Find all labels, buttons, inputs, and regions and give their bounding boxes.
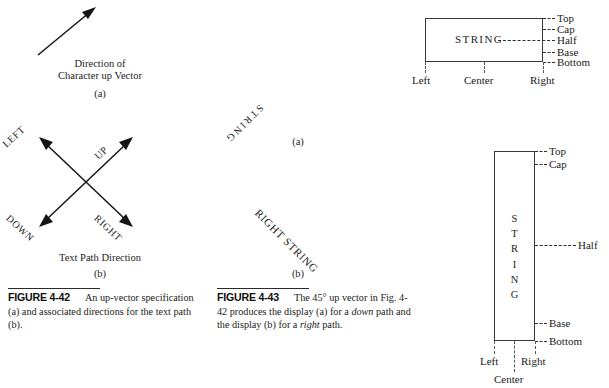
guide-line-center bbox=[514, 341, 515, 372]
figure-page: Direction of Character up Vector (a) LEF… bbox=[0, 0, 609, 388]
vertical-box-letter: I bbox=[494, 257, 535, 272]
guide-label-center: Center bbox=[464, 74, 493, 86]
guide-label-left: Left bbox=[480, 355, 498, 367]
figure-4-43-caption: FIGURE 4-43The 45° up vector in Fig. 4-4… bbox=[217, 288, 417, 332]
guide-label-bottom: Bottom bbox=[557, 56, 590, 68]
guide-line-left bbox=[494, 341, 495, 354]
vertical-box-string: S T R I N G bbox=[494, 211, 535, 302]
guide-line-right bbox=[535, 341, 536, 354]
guide-line-center bbox=[484, 62, 485, 73]
horizontal-box-string: STRING bbox=[455, 33, 503, 45]
vertical-box-letter: N bbox=[494, 272, 535, 287]
guide-line-base bbox=[535, 323, 547, 324]
figure-4-43-caption-line1: The 45° up bbox=[294, 292, 339, 303]
figure-4-42-caption: FIGURE 4-42An up-vector specification (a… bbox=[8, 288, 204, 332]
right-path-string: RIGHT STRING bbox=[253, 207, 321, 275]
vertical-box-letter: T bbox=[494, 226, 535, 241]
guide-line-bottom bbox=[535, 341, 547, 342]
up-vector-caption-line1: Direction of bbox=[0, 58, 200, 70]
guide-label-top: Top bbox=[549, 145, 566, 157]
guide-label-left: Left bbox=[412, 74, 430, 86]
guide-label-right: Right bbox=[521, 355, 545, 367]
vertical-box-letter: S bbox=[494, 211, 535, 226]
figure-4-43-number: FIGURE 4-43 bbox=[217, 291, 279, 303]
figure-4-43-caption-em-right: right bbox=[300, 319, 320, 330]
guide-label-bottom: Bottom bbox=[549, 335, 582, 347]
figure-4-43-caption-line4-pre: the display (b) for a bbox=[217, 319, 300, 330]
figure-4-43-caption-line4-post: path. bbox=[320, 319, 343, 330]
guide-label-cap: Cap bbox=[549, 158, 567, 170]
guide-line-right bbox=[543, 62, 544, 73]
figure-4-43-caption-line3-post: path and bbox=[373, 306, 410, 317]
guide-line-cap bbox=[543, 29, 555, 30]
up-vector-caption-line2: Character up Vector bbox=[0, 70, 200, 82]
figure-4-42-panel-b-label: (b) bbox=[0, 268, 200, 279]
guide-label-half: Half bbox=[557, 34, 577, 46]
figure-4-42-caption-line1: An up-vector bbox=[85, 292, 139, 303]
guide-line-top bbox=[543, 18, 555, 19]
guide-label-center: Center bbox=[494, 373, 523, 385]
up-vector-arrow-icon bbox=[30, 2, 140, 60]
guide-line-half bbox=[498, 40, 555, 41]
figure-4-43-panel-a-label: (a) bbox=[248, 136, 348, 147]
guide-line-half bbox=[535, 245, 576, 246]
guide-line-top bbox=[535, 151, 547, 152]
caption-rule bbox=[8, 288, 100, 289]
up-vector-arrow-diagram bbox=[30, 2, 140, 60]
figure-4-42-number: FIGURE 4-42 bbox=[8, 291, 70, 303]
guide-label-base: Base bbox=[549, 317, 570, 329]
page-bottom-text-fragment bbox=[80, 377, 420, 386]
guide-line-base bbox=[543, 52, 555, 53]
figure-4-42-panel-a-label: (a) bbox=[0, 88, 200, 99]
guide-line-cap bbox=[535, 164, 547, 165]
vertical-box-letter: R bbox=[494, 241, 535, 256]
figure-4-42-caption-body: FIGURE 4-42An up-vector specification (a… bbox=[8, 291, 204, 332]
vertical-box-letter: G bbox=[494, 287, 535, 302]
figure-4-43-caption-line3-pre: display (a) for a bbox=[284, 306, 351, 317]
guide-label-right: Right bbox=[530, 74, 554, 86]
text-path-direction-caption: Text Path Direction bbox=[0, 252, 200, 264]
guide-label-half: Half bbox=[578, 239, 598, 251]
figure-4-43-caption-body: FIGURE 4-43The 45° up vector in Fig. 4-4… bbox=[217, 291, 417, 332]
figure-4-43-panel-b-label: (b) bbox=[248, 268, 348, 279]
caption-rule bbox=[217, 288, 309, 289]
guide-line-bottom bbox=[543, 62, 555, 63]
figure-4-43-caption-em-down: down bbox=[351, 306, 373, 317]
guide-line-left bbox=[425, 62, 426, 73]
